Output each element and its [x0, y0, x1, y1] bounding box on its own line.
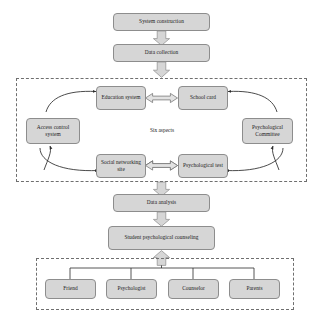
- node-data-collection[interactable]: Data collection: [113, 44, 210, 62]
- node-psychologist[interactable]: Psychologist: [106, 279, 157, 299]
- node-counselor[interactable]: Counselor: [168, 279, 219, 299]
- node-label: Social networking site: [99, 159, 143, 173]
- node-psychological-test[interactable]: Psychological test: [178, 154, 228, 178]
- node-social-networking-site[interactable]: Social networking site: [96, 154, 146, 178]
- node-psychological-committee[interactable]: Psychological Committee: [242, 118, 293, 144]
- node-label: Data collection: [116, 49, 207, 56]
- node-label: Parents: [232, 285, 277, 292]
- node-label: Psychological test: [181, 162, 225, 169]
- node-data-analysis[interactable]: Data analysis: [113, 194, 210, 212]
- node-system-construction[interactable]: System construction: [113, 13, 210, 31]
- node-label: Access control system: [29, 124, 77, 138]
- node-label: Psychologist: [109, 285, 154, 292]
- block-arrow-collection-to-aspects: [153, 62, 169, 77]
- node-label: Student psychological counseling: [111, 234, 212, 241]
- node-label: Psychological Committee: [245, 124, 290, 138]
- node-label: Friend: [48, 285, 93, 292]
- node-education-system[interactable]: Education system: [96, 86, 146, 110]
- node-student-psychological-counseling[interactable]: Student psychological counseling: [108, 226, 215, 250]
- block-arrow-analysis-to-counseling: [153, 212, 169, 226]
- node-school-card[interactable]: School card: [178, 86, 228, 110]
- flowchart-canvas: System construction Data collection Educ…: [0, 0, 323, 323]
- six-aspects-caption: Six aspects: [131, 127, 193, 133]
- node-label: Counselor: [171, 285, 216, 292]
- node-label: School card: [181, 94, 225, 101]
- node-label: Education system: [99, 94, 143, 101]
- node-label: Data analysis: [116, 199, 207, 206]
- node-label: System construction: [116, 18, 207, 25]
- node-access-control-system[interactable]: Access control system: [26, 118, 80, 144]
- node-parents[interactable]: Parents: [229, 279, 280, 299]
- node-friend[interactable]: Friend: [45, 279, 96, 299]
